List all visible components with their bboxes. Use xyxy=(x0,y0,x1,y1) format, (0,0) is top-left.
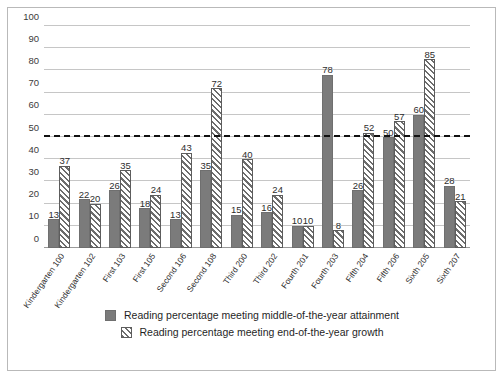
bar-value-label: 37 xyxy=(59,156,70,166)
y-tick-label: 90 xyxy=(28,34,39,44)
bar: 72 xyxy=(211,88,222,248)
bar-groups: 1337222026351824134335721540162410107882… xyxy=(44,26,470,248)
bar: 26 xyxy=(109,190,120,248)
y-tick-label: 100 xyxy=(23,12,39,22)
bar: 35 xyxy=(120,170,131,248)
threshold-line xyxy=(44,135,470,137)
bar: 10 xyxy=(292,226,303,248)
bar-value-label: 78 xyxy=(322,65,333,75)
bar: 85 xyxy=(424,59,435,248)
bar-value-label: 21 xyxy=(455,192,466,202)
bar-value-label: 13 xyxy=(48,210,59,220)
x-tick-label: First 105 xyxy=(132,252,158,284)
bar-group: 2635 xyxy=(105,26,135,248)
bar-value-label: 85 xyxy=(424,50,435,60)
plot-area: 0102030405060708090100 13372220263518241… xyxy=(44,26,470,248)
bar-group: 6085 xyxy=(409,26,439,248)
y-tick-label: 80 xyxy=(28,56,39,66)
hatched-gray-swatch-icon xyxy=(121,327,132,338)
bar: 26 xyxy=(352,190,363,248)
bar: 18 xyxy=(139,208,150,248)
bar-value-label: 57 xyxy=(394,112,405,122)
bar: 13 xyxy=(170,219,181,248)
x-tick-label: First 103 xyxy=(101,252,127,284)
y-tick-label: 60 xyxy=(28,101,39,111)
chart-figure: 0102030405060708090100 13372220263518241… xyxy=(0,0,504,380)
bar: 28 xyxy=(444,186,455,248)
y-tick-label: 50 xyxy=(28,123,39,133)
x-tick-label: Fifth 206 xyxy=(375,252,401,284)
bar: 21 xyxy=(455,201,466,248)
x-tick-label: Sixth 207 xyxy=(435,252,462,285)
plot-wrapper: 0102030405060708090100 13372220263518241… xyxy=(14,14,480,304)
bar-value-label: 40 xyxy=(242,150,253,160)
bar-value-label: 52 xyxy=(364,123,375,133)
bar: 40 xyxy=(242,159,253,248)
bar-group: 1624 xyxy=(257,26,287,248)
bar: 78 xyxy=(322,75,333,248)
bar: 43 xyxy=(181,153,192,248)
bar: 57 xyxy=(394,121,405,248)
legend-item-growth: Reading percentage meeting end-of-the-ye… xyxy=(121,327,384,338)
x-tick-label: Fifth 204 xyxy=(345,252,371,284)
bar-group: 5057 xyxy=(379,26,409,248)
bar-value-label: 22 xyxy=(79,190,90,200)
bar-group: 3572 xyxy=(196,26,226,248)
bar-value-label: 10 xyxy=(303,216,314,226)
bar-group: 2220 xyxy=(74,26,104,248)
bar: 15 xyxy=(231,215,242,248)
bar-value-label: 16 xyxy=(261,203,272,213)
bar-value-label: 18 xyxy=(140,199,151,209)
bar: 16 xyxy=(261,212,272,248)
bar-group: 1540 xyxy=(227,26,257,248)
bar-value-label: 35 xyxy=(120,161,131,171)
bar-value-label: 24 xyxy=(151,185,162,195)
bar-group: 1010 xyxy=(287,26,317,248)
bar: 52 xyxy=(363,133,374,248)
bar: 35 xyxy=(200,170,211,248)
bar: 24 xyxy=(272,195,283,248)
bar-value-label: 26 xyxy=(109,181,120,191)
bar: 24 xyxy=(150,195,161,248)
bar-group: 1337 xyxy=(44,26,74,248)
bar-value-label: 20 xyxy=(90,194,101,204)
bar-value-label: 35 xyxy=(201,161,212,171)
bar-value-label: 10 xyxy=(292,216,303,226)
bar: 20 xyxy=(90,204,101,248)
bar-value-label: 60 xyxy=(413,105,424,115)
bar: 37 xyxy=(59,166,70,248)
bar-group: 788 xyxy=(318,26,348,248)
solid-gray-swatch-icon xyxy=(105,310,116,321)
legend-label-growth: Reading percentage meeting end-of-the-ye… xyxy=(140,327,384,338)
bar-group: 1343 xyxy=(166,26,196,248)
x-axis-category-labels: Kindergarten 100Kindergarten 102First 10… xyxy=(44,250,470,304)
bar: 22 xyxy=(79,199,90,248)
x-label-cell: Sixth 207 xyxy=(439,250,469,304)
y-tick-label: 40 xyxy=(28,145,39,155)
chart-legend: Reading percentage meeting middle-of-the… xyxy=(0,310,504,338)
bar-value-label: 13 xyxy=(170,210,181,220)
y-tick-label: 0 xyxy=(34,234,39,244)
y-tick-label: 70 xyxy=(28,78,39,88)
bar: 10 xyxy=(303,226,314,248)
bar: 8 xyxy=(333,230,344,248)
legend-item-attainment: Reading percentage meeting middle-of-the… xyxy=(105,310,399,321)
bar: 13 xyxy=(48,219,59,248)
y-tick-label: 10 xyxy=(28,212,39,222)
x-tick-label: Sixth 205 xyxy=(404,252,431,285)
bar-group: 1824 xyxy=(135,26,165,248)
bar-value-label: 15 xyxy=(231,205,242,215)
bar-value-label: 26 xyxy=(353,181,364,191)
bar-value-label: 24 xyxy=(272,185,283,195)
bar-value-label: 43 xyxy=(181,143,192,153)
bar: 50 xyxy=(383,137,394,248)
bar-value-label: 72 xyxy=(212,79,223,89)
bar-group: 2821 xyxy=(439,26,469,248)
legend-label-attainment: Reading percentage meeting middle-of-the… xyxy=(124,310,399,321)
bar-value-label: 8 xyxy=(336,221,341,231)
y-tick-label: 20 xyxy=(28,189,39,199)
bar-value-label: 28 xyxy=(444,176,455,186)
bar-group: 2652 xyxy=(348,26,378,248)
y-tick-label: 30 xyxy=(28,167,39,177)
